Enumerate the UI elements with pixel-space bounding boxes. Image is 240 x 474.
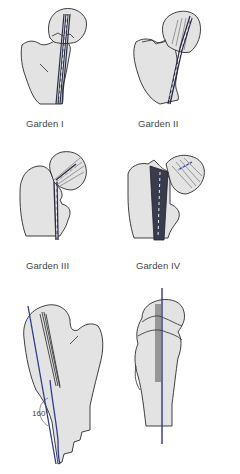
panel-garden-1: Garden I bbox=[0, 0, 120, 140]
panel-lateral-view bbox=[120, 280, 240, 474]
label-garden-3: Garden III bbox=[26, 260, 69, 271]
panel-ap-view: 160° bbox=[0, 280, 120, 474]
femur-lateral-view-illustration bbox=[120, 280, 240, 474]
femur-garden-3-illustration bbox=[0, 140, 120, 280]
panel-garden-3: Garden III bbox=[0, 140, 120, 280]
panel-garden-2: Garden II bbox=[120, 0, 240, 140]
angle-annotation: 160° bbox=[32, 409, 49, 418]
panel-garden-4: Garden IV bbox=[120, 140, 240, 280]
femur-ap-view-illustration: 160° bbox=[0, 280, 120, 474]
label-garden-1: Garden I bbox=[26, 118, 64, 129]
label-garden-2: Garden II bbox=[138, 118, 179, 129]
label-garden-4: Garden IV bbox=[136, 260, 180, 271]
femur-garden-4-illustration bbox=[120, 140, 240, 280]
